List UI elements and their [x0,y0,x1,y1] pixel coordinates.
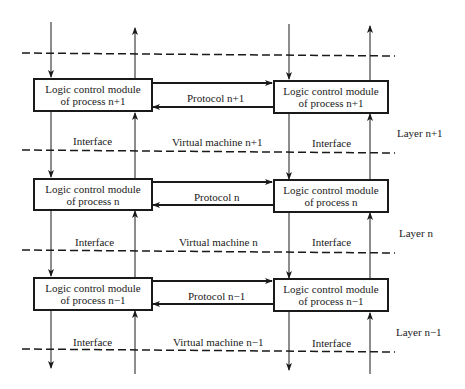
module-process: of process n [304,196,357,208]
module-title: Logic control module [45,183,140,195]
protocol-label-n+1: Protocol n+1 [187,92,244,104]
interface-left-n: Interface [75,236,114,248]
module-title: Logic control module [283,184,378,196]
layer-label-n+1: Layer n+1 [397,127,443,139]
interface-right-n: Interface [312,236,351,248]
module-process: of process n−1 [299,295,364,307]
interface-left-n+1: Interface [73,135,112,147]
interface-right-n-1: Interface [312,337,351,349]
virtual-machine-n: Virtual machine n [179,236,258,248]
module-process: of process n [66,195,119,207]
module-process: of process n+1 [61,95,126,107]
interface-right-n+1: Interface [312,137,351,149]
virtual-machine-n-1: Virtual machine n−1 [173,336,263,348]
module-title: Logic control module [283,85,378,97]
left-module-n: Logic control module of process n [33,178,153,211]
layer-label-n-1: Layer n−1 [396,326,442,338]
layer-label-n: Layer n [399,227,433,239]
protocol-label-n: Protocol n [194,191,240,203]
module-title: Logic control module [45,83,140,95]
module-title: Logic control module [45,282,140,294]
left-module-n+1: Logic control module of process n+1 [33,78,153,112]
boundary-bottom [22,349,395,352]
module-process: of process n−1 [61,294,126,306]
protocol-label-n-1: Protocol n−1 [188,290,245,302]
boundary-top [22,53,395,56]
right-module-n: Logic control module of process n [273,179,389,213]
boundary-n-n-1 [22,250,395,253]
left-module-n-1: Logic control module of process n−1 [33,277,153,311]
module-title: Logic control module [283,283,378,295]
interface-left-n-1: Interface [73,336,112,348]
boundary-n+1-n [22,150,395,153]
virtual-machine-n+1: Virtual machine n+1 [172,136,262,148]
right-module-n+1: Logic control module of process n+1 [273,80,389,114]
module-process: of process n+1 [299,97,364,109]
right-module-n-1: Logic control module of process n−1 [273,278,389,312]
